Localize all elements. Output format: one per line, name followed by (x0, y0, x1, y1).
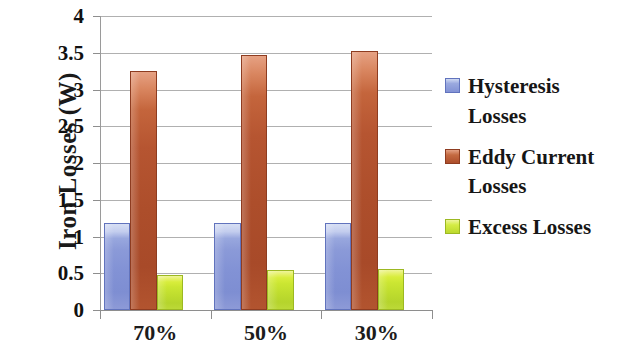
bar-excess-losses (267, 270, 294, 310)
x-axis-line (100, 310, 433, 311)
gridline (100, 53, 432, 54)
x-tick-mark (432, 310, 433, 319)
legend-swatch-icon (445, 219, 460, 234)
x-tick-label-50pct: 50% (211, 322, 322, 344)
x-tick-mark (321, 310, 322, 319)
legend-item-label: Excess Losses (468, 213, 591, 243)
legend-swatch-icon (445, 78, 460, 93)
bar-excess-losses (157, 275, 184, 310)
y-tick-label: 4 (40, 6, 84, 27)
x-tick-label-70pct: 70% (100, 322, 211, 344)
y-axis-line (100, 16, 101, 311)
bar-hysteresis-losses (104, 223, 131, 310)
chart-legend: HysteresisLossesEddy CurrentLossesExcess… (445, 72, 629, 254)
x-tick-mark (100, 310, 101, 319)
y-tick-label: 2 (40, 153, 84, 174)
bar-eddy-current-losses (351, 51, 378, 310)
x-tick-label-30pct: 30% (321, 322, 432, 344)
bar-hysteresis-losses (325, 223, 352, 310)
y-tick-label: 3 (40, 80, 84, 101)
x-tick-mark (211, 310, 212, 319)
y-tick-label: 1.5 (40, 190, 84, 211)
legend-item[interactable]: Excess Losses (445, 213, 629, 243)
legend-item[interactable]: HysteresisLosses (445, 72, 629, 132)
y-tick-label: 2.5 (40, 116, 84, 137)
y-tick-label: 0 (40, 300, 84, 321)
legend-item-label: HysteresisLosses (468, 72, 560, 132)
legend-swatch-icon (445, 149, 460, 164)
bar-hysteresis-losses (214, 223, 241, 310)
legend-item[interactable]: Eddy CurrentLosses (445, 143, 629, 203)
y-tick-label: 0.5 (40, 263, 84, 284)
y-tick-label: 3.5 (40, 43, 84, 64)
gridline (100, 16, 432, 17)
bar-excess-losses (378, 269, 405, 310)
y-tick-label: 1 (40, 227, 84, 248)
legend-item-label: Eddy CurrentLosses (468, 143, 594, 203)
bar-eddy-current-losses (241, 55, 268, 310)
iron-losses-bar-chart: Iron Losses (W) 00.511.522.533.54 70%50%… (0, 0, 629, 355)
plot-area (100, 16, 432, 310)
bar-eddy-current-losses (130, 71, 157, 310)
